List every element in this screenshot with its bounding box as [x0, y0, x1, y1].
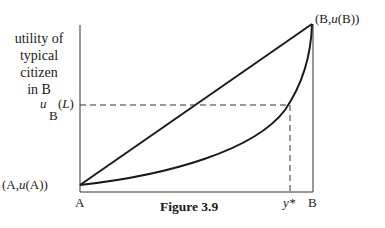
start-point-label: (A,u(A)) — [2, 178, 48, 191]
ystar-text: y* — [283, 195, 295, 210]
y-axis-label: utility of typical citizen in B — [4, 30, 74, 98]
paren-close: ) — [70, 96, 74, 111]
ref-subscript: B — [49, 108, 58, 124]
x-tick-ystar: y* — [283, 196, 295, 209]
end-prefix: (B, — [315, 11, 331, 26]
ref-arg-value: L — [62, 96, 69, 111]
reference-level-label: u B (L) — [40, 96, 47, 112]
x-tick-b: B — [308, 196, 317, 209]
ref-argument: (L) — [58, 96, 74, 112]
ref-symbol: u — [40, 96, 47, 111]
y-label-line-1: utility of — [4, 30, 74, 47]
figure-caption: Figure 3.9 — [160, 199, 218, 215]
x-tick-a: A — [75, 196, 84, 209]
end-suffix: (B)) — [338, 11, 360, 26]
start-suffix: (A)) — [25, 177, 47, 192]
y-label-line-2: typical — [4, 47, 74, 64]
end-point-label: (B,u(B)) — [315, 12, 359, 25]
y-label-line-3: citizen — [4, 64, 74, 81]
start-prefix: (A, — [2, 177, 19, 192]
